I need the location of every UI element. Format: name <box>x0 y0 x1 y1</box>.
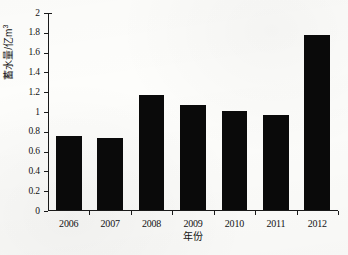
bar <box>56 136 82 210</box>
y-axis-tick: 0.6 <box>44 152 48 153</box>
y-axis-top-cap <box>48 13 52 14</box>
y-axis-tick: 1.4 <box>44 72 48 73</box>
bar <box>304 35 330 210</box>
y-axis-tick-label: 0 <box>35 207 40 217</box>
x-axis-tick <box>131 211 132 215</box>
y-axis-tick: 1.2 <box>44 92 48 93</box>
x-axis-tick <box>172 211 173 215</box>
y-axis-tick: 2 <box>44 13 48 14</box>
y-axis-title-superscript: 3 <box>2 25 9 29</box>
y-axis-tick: 0.8 <box>44 132 48 133</box>
bar <box>180 105 206 210</box>
y-axis-tick-label: 1.6 <box>28 48 40 58</box>
y-axis-tick-label: 0.8 <box>28 128 40 138</box>
x-axis-tick <box>255 211 256 215</box>
y-axis-tick-label: 1.2 <box>28 88 40 98</box>
y-axis-tick: 0.4 <box>44 171 48 172</box>
plot-area: 00.20.40.60.811.21.41.61.82 200620072008… <box>48 13 338 211</box>
x-axis-tick <box>89 211 90 215</box>
bar <box>263 115 289 210</box>
x-axis-line <box>48 210 338 211</box>
x-axis-category-label: 2011 <box>266 219 285 229</box>
bar <box>97 138 123 210</box>
chart-figure: 00.20.40.60.811.21.41.61.82 200620072008… <box>0 0 348 255</box>
x-axis-category-label: 2010 <box>225 219 244 229</box>
y-axis-tick-label: 0.6 <box>28 147 40 157</box>
y-axis-tick: 1 <box>44 112 48 113</box>
x-axis-tick <box>297 211 298 215</box>
y-axis-tick-label: 0.2 <box>28 187 40 197</box>
x-axis-category-label: 2012 <box>308 219 327 229</box>
y-axis-tick: 0 <box>44 211 48 212</box>
x-axis-title: 年份 <box>48 232 338 242</box>
x-axis-category-label: 2006 <box>59 219 78 229</box>
y-axis-tick-label: 1.8 <box>28 29 40 39</box>
bar <box>222 111 248 210</box>
x-axis-category-label: 2009 <box>183 219 202 229</box>
x-axis-tick <box>338 211 339 215</box>
y-axis-line <box>48 13 49 211</box>
y-axis-title-text: 蓄水量/亿m <box>3 29 14 80</box>
y-axis-tick-label: 0.4 <box>28 167 40 177</box>
y-axis-tick-label: 1 <box>35 108 40 118</box>
y-axis-tick-label: 2 <box>35 9 40 19</box>
y-axis-tick: 1.6 <box>44 53 48 54</box>
y-axis-tick-label: 1.4 <box>28 68 40 78</box>
x-axis-category-label: 2007 <box>101 219 120 229</box>
x-axis-tick <box>214 211 215 215</box>
x-axis-category-label: 2008 <box>142 219 161 229</box>
y-axis-tick: 0.2 <box>44 191 48 192</box>
y-axis-tick: 1.8 <box>44 33 48 34</box>
bar <box>139 95 165 210</box>
y-axis-title: 蓄水量/亿m3 <box>2 0 14 107</box>
